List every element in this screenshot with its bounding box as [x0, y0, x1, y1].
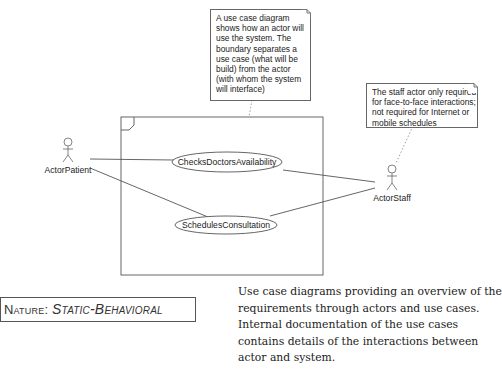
- actor-staff[interactable]: ActorStaff: [373, 165, 411, 203]
- staff-note-connector: [396, 126, 413, 163]
- note-line: will interface): [216, 84, 304, 94]
- note-staff: The staff actor only required for face-t…: [366, 83, 478, 128]
- actor-patient[interactable]: ActorPatient: [45, 138, 92, 175]
- note-fold-icon: [468, 83, 478, 93]
- stick-figure-icon: [63, 138, 73, 162]
- note-line: boundary separates a: [216, 44, 304, 54]
- use-case-checks-doctors-availability[interactable]: ChecksDoctorsAvailability: [172, 152, 282, 172]
- nature-label: Nature:: [4, 302, 52, 317]
- description-text: Use case diagrams providing an overview …: [238, 284, 502, 367]
- note-line: mobile schedules: [372, 118, 471, 128]
- association-staff-checks: [283, 170, 375, 182]
- note-line: The staff actor only required: [372, 87, 471, 97]
- note-line: not required for Internet or: [372, 107, 471, 117]
- use-case-label: ChecksDoctorsAvailability: [178, 157, 277, 167]
- note-line: build) from the actor: [216, 64, 304, 74]
- note-line: use the system. The: [216, 33, 304, 43]
- use-case-schedules-consultation[interactable]: SchedulesConsultation: [175, 216, 277, 234]
- note-fold-icon: [301, 9, 311, 19]
- actor-label: ActorStaff: [373, 193, 411, 203]
- boundary-note-connector: [249, 100, 252, 117]
- nature-box: Nature: Static-Behavioral: [0, 297, 196, 322]
- note-line: for face-to-face interactions;: [372, 97, 471, 107]
- actor-label: ActorPatient: [45, 165, 92, 175]
- note-line: use case (what will be: [216, 54, 304, 64]
- note-line: shows how an actor will: [216, 23, 304, 33]
- note-line: A use case diagram: [216, 13, 304, 23]
- association-patient-schedules: [90, 168, 208, 217]
- association-patient-checks: [90, 159, 174, 160]
- note-line: (with whom the system: [216, 74, 304, 84]
- nature-value: Static-Behavioral: [52, 301, 163, 317]
- system-boundary: [121, 117, 323, 275]
- stick-figure-icon: [387, 165, 397, 190]
- note-boundary: A use case diagram shows how an actor wi…: [210, 9, 311, 101]
- use-case-label: SchedulesConsultation: [182, 220, 270, 230]
